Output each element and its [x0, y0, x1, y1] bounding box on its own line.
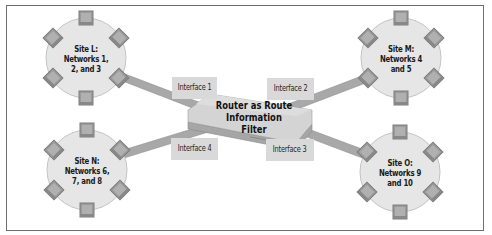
node-icon: [79, 91, 93, 105]
site-n-label: Site N: Networks 6, 7, and 8: [58, 156, 115, 186]
router-label: Router as Route Information Filter: [215, 100, 292, 136]
interface-4-label: Interface 4: [171, 138, 218, 160]
interface-1-label: Interface 1: [172, 77, 217, 99]
node-icon: [79, 11, 93, 25]
interface-3-label: Interface 3: [266, 139, 314, 161]
site-m-label: Site M: Networks 4 and 5: [372, 44, 429, 74]
site-o-label: Site O: Networks 9 and 10: [371, 158, 428, 188]
interface-2-label: Interface 2: [267, 78, 314, 100]
site-l-label: Site L: Networks 1, 2, and 3: [57, 44, 114, 74]
